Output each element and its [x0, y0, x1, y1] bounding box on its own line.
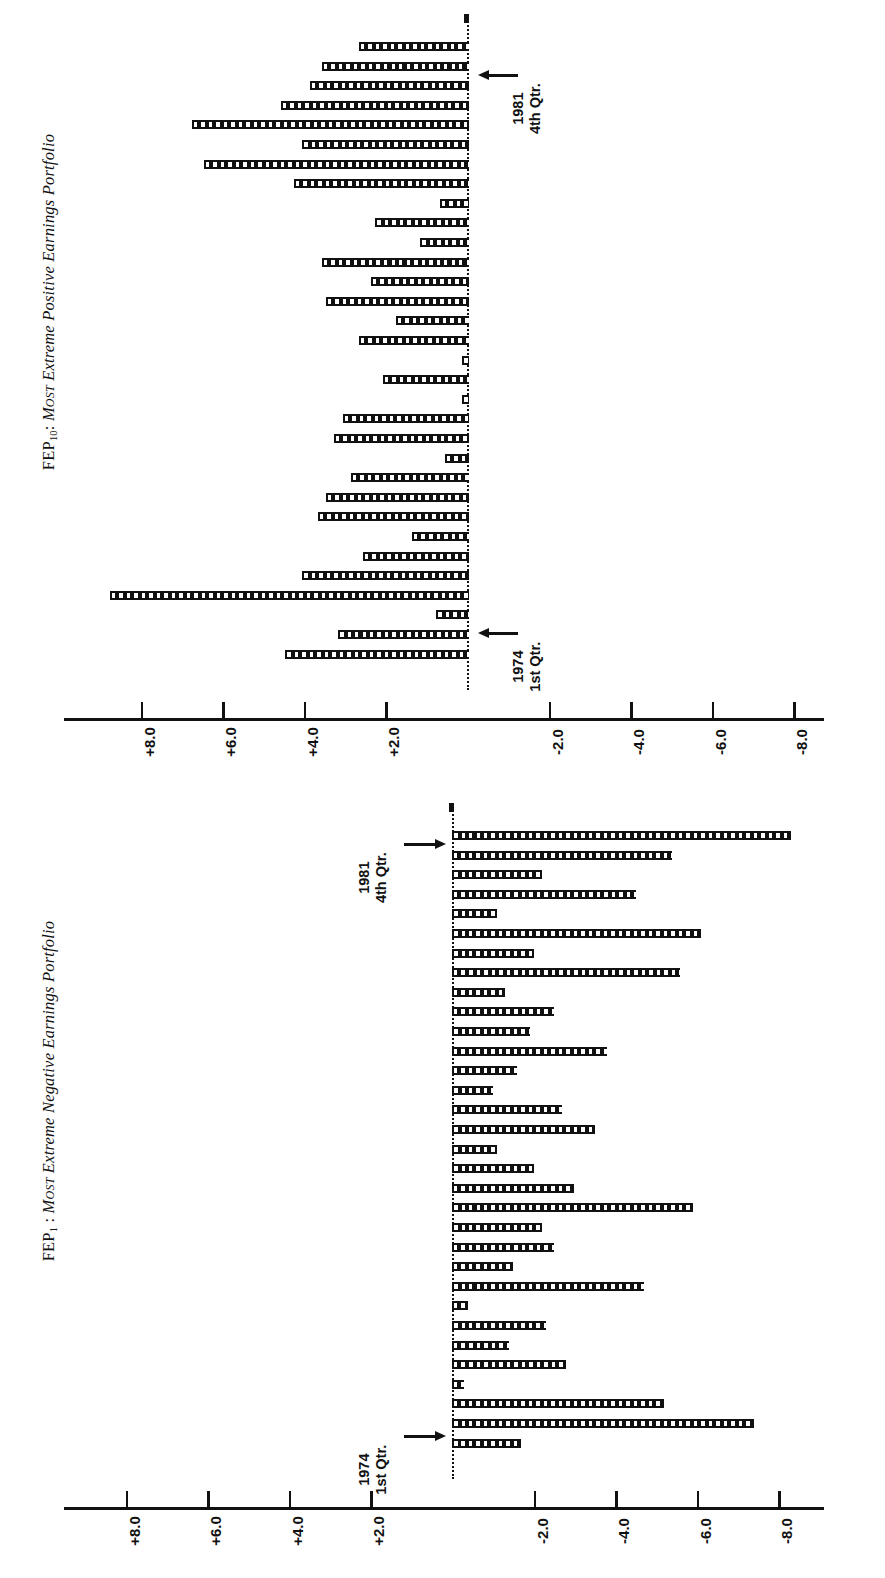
bar	[420, 238, 469, 247]
plot-area-fep1: 1981 4th Qtr. 1974 1st Qtr.	[0, 789, 885, 1489]
bar	[452, 890, 636, 899]
bar	[452, 1105, 562, 1114]
bar	[110, 591, 469, 600]
bar	[452, 1125, 595, 1134]
bar	[294, 179, 469, 188]
bar	[371, 277, 469, 286]
bar	[452, 1007, 554, 1016]
bar	[436, 610, 469, 619]
annotation-end-fep10: 1981 4th Qtr.	[510, 76, 543, 142]
bar	[452, 1341, 509, 1350]
annotation-start-fep10: 1974 1st Qtr.	[510, 634, 543, 700]
bar	[351, 473, 469, 482]
value-axis-fep1: +8.0+6.0+4.0+2.0-2.0-4.0-6.0-8.0	[64, 1507, 824, 1510]
bar	[343, 414, 469, 423]
bar	[452, 1262, 513, 1271]
axis-tick-label: +6.0	[222, 710, 239, 774]
bar	[285, 650, 469, 659]
bar	[326, 297, 469, 306]
bar	[322, 62, 469, 71]
bar	[440, 199, 469, 208]
bar	[338, 630, 469, 639]
bar	[452, 949, 534, 958]
bar	[318, 512, 469, 521]
axis-tick-label: +2.0	[370, 1499, 387, 1563]
bar	[452, 1439, 521, 1448]
bar	[302, 140, 469, 149]
bar	[452, 1164, 534, 1173]
bar	[383, 375, 469, 384]
axis-tick-label: +6.0	[207, 1499, 224, 1563]
bar	[452, 1145, 497, 1154]
bar	[192, 120, 469, 129]
bar	[302, 571, 469, 580]
annotation-start-quarter: 1st Qtr.	[373, 1437, 390, 1503]
bar	[452, 1047, 607, 1056]
bar	[281, 101, 469, 110]
axis-tick-label: +2.0	[385, 710, 402, 774]
bar	[462, 356, 469, 365]
bar	[452, 1360, 566, 1369]
bar	[363, 552, 469, 561]
bar	[445, 454, 469, 463]
annotation-end-quarter: 4th Qtr.	[373, 845, 390, 911]
bar	[452, 1282, 644, 1291]
bar	[462, 395, 469, 404]
axis-tick-label: +8.0	[141, 710, 158, 774]
bar	[452, 1027, 530, 1036]
annotation-end-quarter: 4th Qtr.	[527, 76, 544, 142]
bar	[359, 336, 469, 345]
axis-tick-label: -4.0	[630, 710, 647, 774]
bar	[452, 1066, 517, 1075]
bar	[452, 1399, 664, 1408]
bar	[334, 434, 469, 443]
annotation-arrow-start-fep1	[404, 1431, 446, 1442]
bar	[396, 316, 469, 325]
axis-tick-label: -4.0	[615, 1499, 632, 1563]
bar	[322, 258, 469, 267]
axis-tick-label: +8.0	[126, 1499, 143, 1563]
bar	[452, 1419, 754, 1428]
axis-tick-label: -8.0	[793, 710, 810, 774]
panel-fep1: FEP1 : Most Extreme Negative Earnings Po…	[0, 789, 885, 1578]
annotation-arrow-end-fep1	[404, 839, 446, 850]
axis-tick-label: +4.0	[304, 710, 321, 774]
annotation-end-year: 1981	[356, 845, 373, 911]
panel-fep10: FEP10: Most Extreme Positive Earnings Po…	[0, 0, 885, 789]
bar	[452, 929, 701, 938]
bar	[452, 1380, 464, 1389]
value-axis-fep10: +8.0+6.0+4.0+2.0-2.0-4.0-6.0-8.0	[64, 718, 824, 721]
bar	[412, 532, 469, 541]
axis-tick-label: -6.0	[697, 1499, 714, 1563]
annotation-start-quarter: 1st Qtr.	[527, 634, 544, 700]
bar	[452, 968, 680, 977]
axis-tick-label: -2.0	[534, 1499, 551, 1563]
annotation-end-fep1: 1981 4th Qtr.	[356, 845, 389, 911]
bar	[452, 1301, 468, 1310]
zero-reference-line	[452, 807, 454, 1479]
bar	[452, 1203, 693, 1212]
bar	[204, 160, 469, 169]
annotation-end-year: 1981	[510, 76, 527, 142]
axis-tick-label: -8.0	[778, 1499, 795, 1563]
bar	[452, 909, 497, 918]
axis-tick-label: +4.0	[289, 1499, 306, 1563]
bar	[452, 988, 505, 997]
annotation-start-year: 1974	[510, 634, 527, 700]
axis-tick-label: -6.0	[712, 710, 729, 774]
bar	[452, 1321, 546, 1330]
bar	[326, 493, 469, 502]
zero-line-top-cap	[464, 14, 469, 23]
bar	[452, 1184, 574, 1193]
bar	[452, 1223, 542, 1232]
bar	[375, 218, 469, 227]
plot-area-fep10: 1981 4th Qtr. 1974 1st Qtr.	[0, 0, 885, 700]
bar	[359, 42, 469, 51]
bar	[452, 831, 791, 840]
bar	[452, 851, 672, 860]
bar	[452, 1243, 554, 1252]
zero-line-top-cap	[449, 803, 454, 812]
annotation-start-fep1: 1974 1st Qtr.	[356, 1437, 389, 1503]
zero-reference-line	[467, 18, 469, 690]
bar	[452, 1086, 493, 1095]
